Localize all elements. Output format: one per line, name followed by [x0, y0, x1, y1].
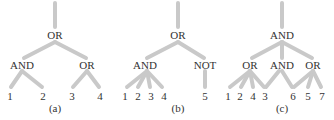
tree-a-or-node: OR	[79, 59, 95, 71]
tree-b-leaf: 3	[148, 90, 154, 102]
tree-b-leaf: 2	[135, 90, 141, 102]
tree-a-leaf: 2	[40, 90, 46, 102]
tree-a-edges	[11, 3, 99, 87]
tree-b-root-node: OR	[170, 29, 186, 41]
tree-b-not-node: NOT	[194, 59, 217, 71]
tree-b-edges	[127, 3, 205, 87]
tree-b-leaf: 4	[161, 90, 167, 102]
tree-c: AND OR AND OR 1 2 4 3 6 5 7 (c)	[225, 3, 325, 115]
tree-c-root-node: AND	[270, 29, 294, 41]
tree-b-leaf: 1	[122, 90, 128, 102]
tree-c-caption: (c)	[276, 102, 289, 115]
tree-c-or-node-left: OR	[242, 59, 258, 71]
tree-c-leaf: 5	[305, 90, 311, 102]
tree-b-caption: (b)	[172, 102, 185, 115]
tree-c-leaf: 6	[290, 90, 296, 102]
tree-c-leaf: 1	[225, 90, 231, 102]
tree-a: OR AND OR 1 2 3 4 (a)	[7, 3, 103, 115]
tree-c-leaf: 3	[262, 90, 268, 102]
tree-c-leaf: 7	[319, 90, 325, 102]
tree-b-and-node: AND	[133, 59, 157, 71]
tree-a-caption: (a)	[49, 102, 62, 115]
tree-c-leaf: 4	[250, 90, 256, 102]
tree-b-leaf: 5	[202, 90, 208, 102]
tree-c-edges	[230, 3, 321, 87]
tree-c-or-node-right: OR	[305, 59, 321, 71]
tree-a-leaf: 4	[97, 90, 103, 102]
tree-a-and-node: AND	[10, 59, 34, 71]
tree-a-root-node: OR	[47, 29, 63, 41]
logic-trees-diagram: OR AND OR 1 2 3 4 (a) OR AND NOT 1 2 3 4…	[0, 0, 334, 120]
tree-c-and-node-middle: AND	[270, 59, 294, 71]
tree-b: OR AND NOT 1 2 3 4 5 (b)	[122, 3, 216, 115]
tree-c-leaf: 2	[237, 90, 243, 102]
tree-a-leaf: 1	[7, 90, 13, 102]
tree-a-leaf: 3	[69, 90, 75, 102]
